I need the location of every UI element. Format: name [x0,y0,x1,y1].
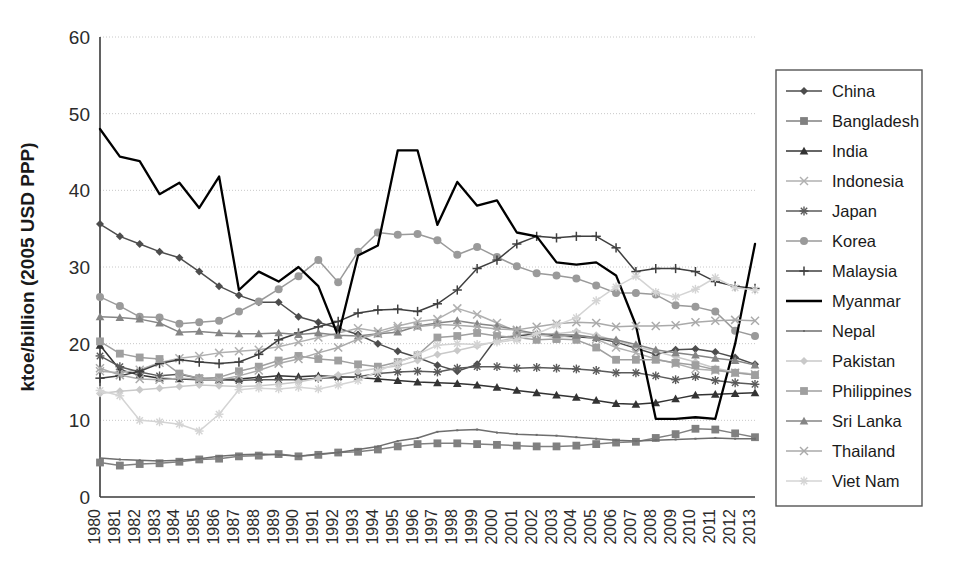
data-point-marker [136,386,144,394]
data-point-marker [473,340,482,349]
data-point-marker [635,440,637,442]
data-point-marker [139,459,141,461]
y-tick-label: 10 [69,410,90,431]
data-point-marker [651,288,660,297]
x-tick-label: 2009 [662,509,679,545]
data-point-marker [195,318,203,326]
legend-label: Japan [832,202,877,220]
y-axis-title: ktoe/billion (2005 USD PPP) [17,142,38,391]
data-point-marker [592,232,601,241]
data-point-marker [592,281,600,289]
data-point-marker [595,438,597,440]
x-tick-label: 1987 [225,509,242,545]
data-point-marker [692,425,700,433]
data-point-marker [493,338,502,347]
data-point-marker [235,291,243,299]
data-point-marker [255,452,263,460]
data-point-marker [675,439,677,441]
data-point-marker [575,436,577,438]
data-point-marker [175,420,184,429]
data-point-marker [694,438,696,440]
data-point-marker [632,272,641,281]
data-point-marker [691,285,700,294]
data-point-marker [417,437,419,439]
data-point-marker [119,458,121,460]
data-point-marker [473,243,481,251]
data-point-marker [632,356,640,364]
data-point-marker [195,427,204,436]
data-point-marker [751,371,759,379]
data-point-marker [532,363,541,372]
x-tick-label: 2013 [741,509,758,545]
data-point-marker [234,357,243,366]
data-point-marker [433,299,442,308]
data-point-marker [394,443,402,451]
chart-root: 0102030405060 19801981198219831984198519… [0,0,960,584]
data-point-marker [238,454,240,456]
legend-label: India [832,142,869,160]
data-point-marker [692,361,700,369]
data-point-marker [136,460,144,468]
x-tick-label: 2006 [602,509,619,545]
data-point-marker [294,272,302,280]
data-point-marker [731,378,740,387]
x-tick-label: 2003 [543,509,560,545]
data-point-marker [156,248,164,256]
data-point-marker [572,313,581,322]
x-tick-label: 1984 [165,509,182,545]
data-point-marker [513,442,521,450]
data-point-marker [453,439,461,447]
data-point-marker [552,233,561,242]
data-point-marker [155,417,164,426]
y-tick-label: 20 [69,334,90,355]
x-tick-label: 1981 [106,509,123,545]
data-point-marker [414,230,422,238]
data-point-marker [433,350,441,358]
data-point-marker [651,264,660,273]
x-tick-label: 2011 [701,509,718,544]
data-point-marker [96,220,104,228]
data-point-marker [436,431,438,433]
data-point-marker [178,459,180,461]
legend-label: Viet Nam [832,472,900,490]
data-point-marker [731,429,739,437]
data-point-marker [294,383,303,392]
x-tick-label: 1992 [324,509,341,545]
data-point-marker [496,432,498,434]
data-point-marker [357,448,359,450]
data-point-marker [615,439,617,441]
data-point-marker [751,380,760,389]
y-tick-label: 60 [69,27,90,48]
x-tick-label: 1994 [364,509,381,545]
series-line [100,308,755,374]
data-point-marker [353,308,362,317]
data-point-marker [671,264,680,273]
data-point-marker [235,385,244,394]
legend-label: Bangladesh [832,112,919,130]
data-point-marker [552,321,561,330]
data-point-marker [373,305,382,314]
data-point-marker [572,442,580,450]
data-point-marker [373,367,382,376]
data-point-marker [734,438,736,440]
x-tick-label: 1990 [284,509,301,545]
data-point-marker [297,455,299,457]
chart-legend: ChinaBangladeshIndiaIndonesiaJapanKoreaM… [776,70,922,506]
data-point-marker [691,372,700,381]
data-point-marker [96,293,104,301]
data-point-marker [473,362,482,371]
data-point-marker [800,477,809,486]
data-point-marker [711,273,720,282]
legend-label: Nepal [832,322,875,340]
data-point-marker [572,275,580,283]
data-point-marker [175,355,184,364]
x-tick-label: 2007 [622,509,639,545]
legend-label: Malaysia [832,262,898,280]
data-point-marker [334,381,343,390]
data-point-marker [334,278,342,286]
data-point-marker [334,357,342,365]
data-point-marker [800,237,808,245]
data-point-marker [275,285,283,293]
data-point-marker [671,375,680,384]
data-point-marker [433,236,441,244]
